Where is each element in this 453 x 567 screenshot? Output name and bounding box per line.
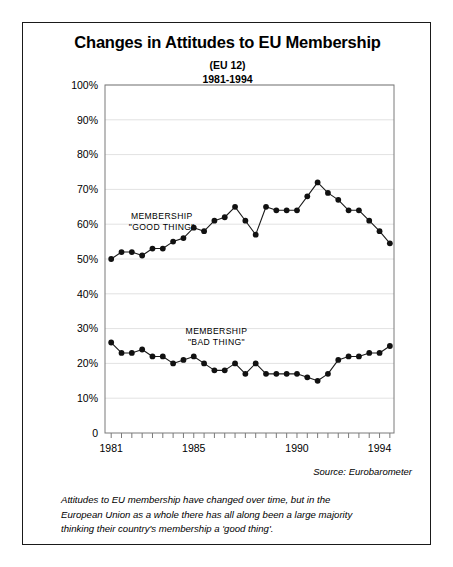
y-axis-tick-label: 70% xyxy=(77,183,98,195)
y-axis-tick-label: 40% xyxy=(77,288,98,300)
data-point-bad-thing xyxy=(170,361,176,367)
data-point-good-thing xyxy=(356,207,362,213)
data-point-good-thing xyxy=(263,204,269,210)
data-point-bad-thing xyxy=(201,361,207,367)
page-title: Changes in Attitudes to EU Membership xyxy=(23,33,432,52)
y-axis-tick-label: 100% xyxy=(71,79,98,91)
data-point-bad-thing xyxy=(212,367,218,373)
data-point-good-thing xyxy=(346,207,352,213)
data-point-bad-thing xyxy=(119,350,125,356)
data-point-bad-thing xyxy=(222,367,228,373)
data-point-good-thing xyxy=(170,239,176,245)
data-point-good-thing xyxy=(232,204,238,210)
data-point-bad-thing xyxy=(160,354,166,360)
data-point-good-thing xyxy=(284,207,290,213)
x-axis-tick-label: 1981 xyxy=(100,442,124,454)
data-point-bad-thing xyxy=(191,354,197,360)
data-point-good-thing xyxy=(139,253,145,259)
data-point-good-thing xyxy=(242,218,248,224)
data-point-bad-thing xyxy=(284,371,290,377)
data-point-good-thing xyxy=(150,246,156,252)
data-point-bad-thing xyxy=(273,371,279,377)
data-point-good-thing xyxy=(222,214,228,220)
data-point-good-thing xyxy=(119,249,125,255)
data-point-good-thing xyxy=(273,207,279,213)
data-point-bad-thing xyxy=(139,347,145,353)
data-point-bad-thing xyxy=(335,357,341,363)
data-point-bad-thing xyxy=(366,350,372,356)
data-point-bad-thing xyxy=(387,343,393,349)
data-point-good-thing xyxy=(315,180,321,186)
data-point-good-thing xyxy=(108,256,114,262)
caption-line-2: European Union as a whole there has all … xyxy=(61,508,391,523)
data-point-bad-thing xyxy=(150,354,156,360)
data-point-good-thing xyxy=(201,228,207,234)
y-axis-tick-label: 30% xyxy=(77,322,98,334)
y-axis-tick-label: 90% xyxy=(77,114,98,126)
data-point-good-thing xyxy=(377,228,383,234)
data-point-bad-thing xyxy=(304,374,310,380)
x-axis-tick-label: 1994 xyxy=(368,442,392,454)
y-axis-tick-label: 50% xyxy=(77,253,98,265)
data-point-bad-thing xyxy=(325,371,331,377)
series-line-bad-thing xyxy=(111,343,390,381)
data-point-good-thing xyxy=(294,207,300,213)
y-axis-tick-label: 20% xyxy=(77,357,98,369)
data-point-good-thing xyxy=(212,218,218,224)
data-point-bad-thing xyxy=(356,354,362,360)
series-label-good-thing-line1: MEMBERSHIP xyxy=(131,211,193,221)
data-point-bad-thing xyxy=(129,350,135,356)
chart-subtitle-region: (EU 12) xyxy=(23,59,432,71)
chart-plot-area: 010%20%30%40%50%60%70%80%90%100%19811985… xyxy=(59,79,399,479)
data-point-bad-thing xyxy=(232,361,238,367)
data-point-bad-thing xyxy=(108,340,114,346)
series-label-bad-thing-line1: MEMBERSHIP xyxy=(186,326,248,336)
data-point-bad-thing xyxy=(263,371,269,377)
y-axis-tick-label: 80% xyxy=(77,148,98,160)
data-point-good-thing xyxy=(129,249,135,255)
chart-caption: Attitudes to EU membership have changed … xyxy=(61,493,391,537)
caption-line-3: thinking their country's membership a 'g… xyxy=(61,522,391,537)
data-point-good-thing xyxy=(253,232,259,238)
data-point-good-thing xyxy=(181,235,187,241)
data-point-bad-thing xyxy=(346,354,352,360)
data-point-bad-thing xyxy=(181,357,187,363)
caption-line-1: Attitudes to EU membership have changed … xyxy=(61,493,391,508)
series-label-bad-thing-line2: "BAD THING" xyxy=(188,337,245,347)
x-axis-tick-label: 1990 xyxy=(285,442,309,454)
data-point-good-thing xyxy=(325,190,331,196)
y-axis-tick-label: 60% xyxy=(77,218,98,230)
data-point-good-thing xyxy=(335,197,341,203)
chart-source-note: Source: Eurobarometer xyxy=(112,466,412,477)
data-point-bad-thing xyxy=(294,371,300,377)
chart-card: Changes in Attitudes to EU Membership (E… xyxy=(22,22,431,545)
y-axis-tick-label: 10% xyxy=(77,392,98,404)
data-point-good-thing xyxy=(366,218,372,224)
line-chart: 010%20%30%40%50%60%70%80%90%100%19811985… xyxy=(59,79,399,479)
data-point-bad-thing xyxy=(253,361,259,367)
data-point-bad-thing xyxy=(315,378,321,384)
data-point-good-thing xyxy=(160,246,166,252)
series-label-good-thing-line2: "GOOD THING" xyxy=(129,222,195,232)
data-point-good-thing xyxy=(304,193,310,199)
y-axis-tick-label: 0 xyxy=(92,427,98,439)
data-point-bad-thing xyxy=(242,371,248,377)
data-point-bad-thing xyxy=(377,350,383,356)
x-axis-tick-label: 1985 xyxy=(182,442,206,454)
data-point-good-thing xyxy=(387,240,393,246)
